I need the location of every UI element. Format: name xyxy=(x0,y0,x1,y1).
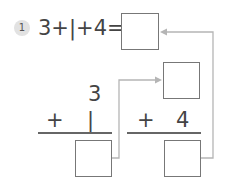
right-sum-line xyxy=(127,132,201,134)
final-answer-box[interactable] xyxy=(121,13,159,50)
equation-text: 3+|+4= xyxy=(38,14,125,42)
right-answer-box[interactable] xyxy=(164,140,201,177)
right-top-box[interactable] xyxy=(163,62,200,99)
left-operator: + xyxy=(46,108,64,132)
right-operator: + xyxy=(137,108,155,132)
arrowhead-icon xyxy=(155,77,162,84)
arrowhead-icon xyxy=(160,29,167,36)
left-bottom-operand: | xyxy=(87,108,94,132)
problem-number-badge: 1 xyxy=(14,20,30,36)
left-sum-line xyxy=(38,132,112,134)
left-answer-box[interactable] xyxy=(75,140,112,177)
left-top-operand: 3 xyxy=(88,82,101,106)
right-bottom-operand: 4 xyxy=(176,108,189,132)
